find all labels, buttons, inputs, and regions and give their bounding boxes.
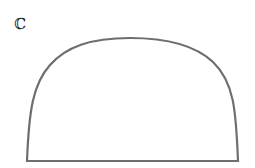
dome-outline xyxy=(27,38,238,161)
dome-shape xyxy=(0,0,255,168)
